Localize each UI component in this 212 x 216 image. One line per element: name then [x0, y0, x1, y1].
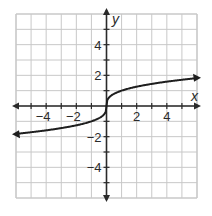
x-tick-label: −4	[36, 109, 51, 124]
function-graph: −4−22442−2−4 x y	[0, 0, 212, 216]
y-tick-label: −4	[87, 160, 102, 175]
x-tick-label: −2	[66, 109, 81, 124]
y-tick-label: 4	[94, 38, 101, 53]
x-axis-label: x	[190, 88, 199, 104]
y-tick-label: 2	[94, 68, 101, 83]
x-tick-label: 4	[163, 109, 170, 124]
y-axis-label: y	[111, 11, 120, 27]
y-tick-label: −2	[87, 130, 102, 145]
x-tick-label: 2	[133, 109, 140, 124]
